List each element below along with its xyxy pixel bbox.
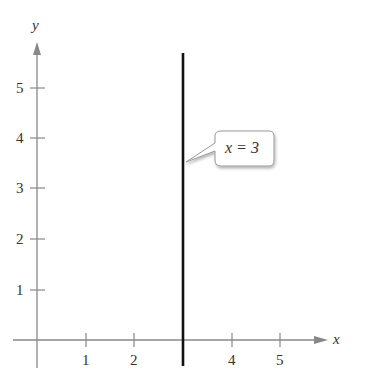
callout-text: x = 3 (225, 140, 259, 156)
y-tick-label: 3 (16, 181, 24, 196)
y-tick-label: 1 (16, 283, 24, 298)
x-tick-label: 4 (228, 353, 236, 368)
y-tick-label: 5 (16, 81, 24, 96)
y-tick-label: 4 (16, 131, 24, 146)
x-tick-label: 2 (130, 353, 138, 368)
y-axis-label: y (32, 18, 39, 33)
chart-canvas (0, 0, 374, 386)
y-axis-arrow-icon (33, 42, 41, 55)
x-axis-arrow-icon (314, 336, 328, 344)
y-tick-label: 2 (16, 232, 24, 247)
x-tick-label: 1 (82, 353, 90, 368)
x-axis-label: x (333, 332, 340, 347)
x-tick-label: 5 (276, 353, 284, 368)
